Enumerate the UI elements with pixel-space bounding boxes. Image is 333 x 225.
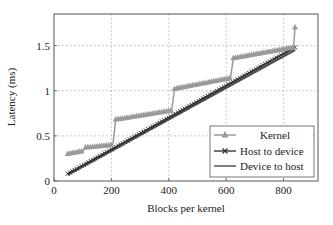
y-tick-label: 1.5 bbox=[36, 40, 50, 52]
legend: Kernel Host to device Device to host bbox=[210, 126, 314, 177]
svg-text:Device to host: Device to host bbox=[240, 160, 304, 172]
y-tick-label: 1 bbox=[45, 85, 51, 97]
y-tick-label: 0 bbox=[45, 175, 51, 187]
svg-text:Host to device: Host to device bbox=[240, 145, 304, 157]
x-tick-label: 200 bbox=[103, 184, 120, 196]
y-tick-label: 0.5 bbox=[36, 130, 50, 142]
x-tick-label: 0 bbox=[51, 184, 57, 196]
x-tick-label: 400 bbox=[161, 184, 178, 196]
x-axis-label: Blocks per kernel bbox=[147, 202, 225, 214]
latency-chart: 0200400600800 00.511.5 Blocks per kernel… bbox=[0, 0, 333, 225]
x-tick-label: 600 bbox=[218, 184, 235, 196]
y-axis-label: Latency (ms) bbox=[5, 67, 18, 126]
x-tick-label: 800 bbox=[275, 184, 292, 196]
svg-text:Kernel: Kernel bbox=[260, 129, 290, 141]
